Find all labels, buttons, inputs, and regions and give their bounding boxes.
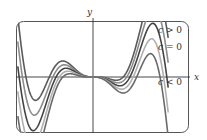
label-c-zero-rel: = 0 [163,42,182,52]
x-axis-label: x [194,72,199,82]
label-c-negative: c < 0 [158,77,182,87]
y-axis-label: y [86,7,93,17]
label-c-zero: c = 0 [158,42,182,52]
label-c-negative-rel: < 0 [163,77,182,87]
label-c-positive-rel: > 0 [163,25,182,35]
label-c-positive: c > 0 [158,25,182,35]
chart: x y c > 0 c = 0 c < 0 [0,0,207,140]
